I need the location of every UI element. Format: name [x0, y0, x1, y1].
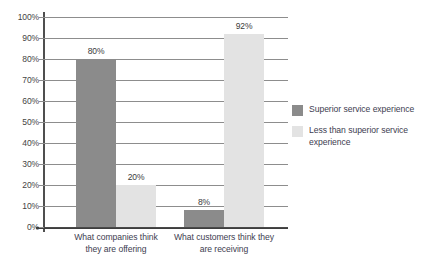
tick-20% [39, 185, 44, 186]
gridline-0% [44, 227, 288, 228]
legend-label-1: Superior service experience [309, 104, 414, 116]
tick-50% [39, 122, 44, 123]
bar-group1-series2[interactable] [116, 185, 156, 227]
tick-30% [39, 164, 44, 165]
legend-item-2[interactable]: Less than superior serviceexperience [292, 125, 434, 148]
legend-label-2: Less than superior serviceexperience [309, 125, 408, 148]
bar-value-label-group2-series2: 92% [224, 21, 264, 31]
tick-80% [39, 59, 44, 60]
bar-value-label-group1-series1: 80% [76, 46, 116, 56]
y-tick-label-0%: 0% [5, 222, 39, 232]
legend-item-1[interactable]: Superior service experience [292, 104, 434, 116]
clipped-bottom-text [0, 258, 434, 269]
bar-value-label-group1-series2: 20% [116, 172, 156, 182]
bar-group2-series2[interactable] [224, 34, 264, 227]
y-tick-label-40%: 40% [5, 138, 39, 148]
y-tick-label-90%: 90% [5, 33, 39, 43]
y-tick-label-70%: 70% [5, 75, 39, 85]
legend-swatch-icon-2 [292, 126, 303, 137]
bar-value-label-group2-series1: 8% [184, 197, 224, 207]
category-label-line: are receiving [164, 244, 284, 256]
legend-swatch-icon-1 [292, 105, 303, 116]
y-tick-label-20%: 20% [5, 180, 39, 190]
tick-70% [39, 80, 44, 81]
y-tick-label-100%: 100% [5, 12, 39, 22]
tick-100% [39, 17, 44, 18]
plot-area: 80%20%8%92% [44, 17, 288, 227]
legend-label-line: Less than superior service [309, 125, 408, 137]
gridline-100% [44, 17, 288, 18]
tick-40% [39, 143, 44, 144]
bar-chart: 0%10%20%30%40%50%60%70%80%90%100% 80%20%… [0, 0, 434, 269]
chart-legend: Superior service experienceLess than sup… [292, 104, 434, 157]
tick-0% [39, 227, 44, 228]
tick-10% [39, 206, 44, 207]
y-tick-label-60%: 60% [5, 96, 39, 106]
category-label-2: What customers think theyare receiving [164, 232, 284, 255]
tick-90% [39, 38, 44, 39]
legend-label-line: experience [309, 137, 408, 149]
y-tick-label-50%: 50% [5, 117, 39, 127]
y-tick-label-30%: 30% [5, 159, 39, 169]
category-label-line: What companies think [56, 232, 176, 244]
bar-group2-series1[interactable] [184, 210, 224, 227]
category-label-1: What companies thinkthey are offering [56, 232, 176, 255]
legend-label-line: Superior service experience [309, 104, 414, 116]
category-label-line: What customers think they [164, 232, 284, 244]
tick-60% [39, 101, 44, 102]
bar-group1-series1[interactable] [76, 59, 116, 227]
y-tick-label-80%: 80% [5, 54, 39, 64]
category-label-line: they are offering [56, 244, 176, 256]
y-tick-label-10%: 10% [5, 201, 39, 211]
